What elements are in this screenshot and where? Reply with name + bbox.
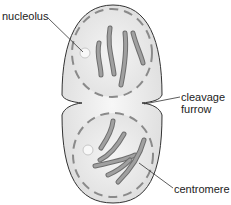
label-nucleolus: nucleolus <box>2 10 48 22</box>
label-centromere: centromere <box>174 183 230 195</box>
nucleolus-top <box>80 48 90 58</box>
label-cleavage: cleavage <box>181 91 225 103</box>
top-nucleus <box>72 9 152 97</box>
label-furrow: furrow <box>181 103 212 115</box>
bottom-nucleus <box>73 113 153 197</box>
nucleolus-bottom <box>83 145 93 155</box>
